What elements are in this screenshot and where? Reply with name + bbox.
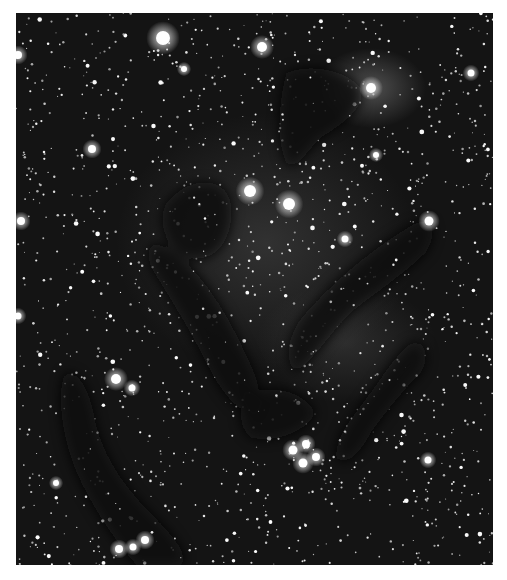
bright-star bbox=[359, 76, 383, 100]
bright-star bbox=[236, 177, 265, 206]
bright-star bbox=[420, 452, 437, 469]
bright-star bbox=[82, 139, 101, 158]
bright-star bbox=[275, 190, 304, 219]
bright-star bbox=[124, 380, 141, 397]
bright-star bbox=[135, 530, 154, 549]
bright-star bbox=[463, 65, 480, 82]
star-field-image bbox=[16, 13, 493, 565]
bright-star bbox=[337, 231, 354, 248]
bright-star bbox=[177, 62, 191, 76]
bright-star bbox=[292, 452, 314, 474]
astrophotograph bbox=[16, 13, 493, 565]
bright-star bbox=[418, 210, 440, 232]
bright-star bbox=[49, 476, 63, 490]
bright-star bbox=[250, 35, 274, 59]
bright-star bbox=[369, 148, 383, 162]
bright-star bbox=[146, 21, 180, 55]
